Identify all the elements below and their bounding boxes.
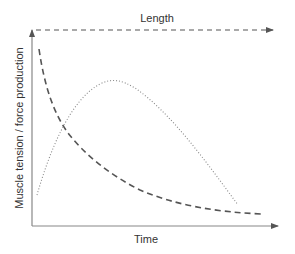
dashed-tension-curve	[39, 49, 262, 214]
y-axis-label: Muscle tension / force production	[13, 47, 25, 208]
top-label: Length	[140, 12, 174, 24]
dotted-tension-curve	[37, 81, 238, 205]
tension-diagram: Length Time Muscle tension / force produ…	[0, 0, 295, 254]
x-axis-label: Time	[134, 233, 158, 245]
